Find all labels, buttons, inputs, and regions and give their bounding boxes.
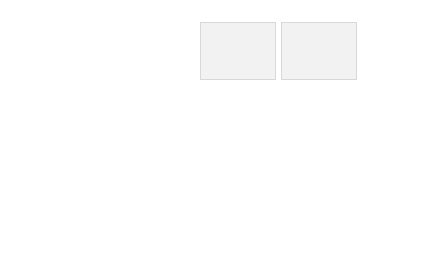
callout-us-cyclical: [281, 22, 357, 80]
callout-canada-natural-rate: [200, 22, 276, 80]
unemployment-rate-chart: [0, 0, 440, 262]
